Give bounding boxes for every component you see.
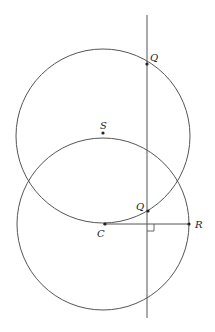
circles-group — [16, 49, 190, 310]
label-q-top: Q — [150, 52, 158, 63]
right-angle-mark — [147, 224, 154, 231]
label-s: S — [100, 120, 107, 131]
point-s — [101, 131, 104, 134]
label-r: R — [194, 219, 203, 230]
label-q-bottom: Q — [136, 201, 144, 212]
label-c: C — [97, 228, 105, 239]
point-q-bottom — [146, 209, 149, 212]
geometry-diagram: QSQCR — [0, 0, 215, 332]
points-group: QSQCR — [97, 52, 203, 239]
upper-circle — [16, 49, 190, 223]
point-r — [187, 222, 190, 225]
point-c — [103, 222, 106, 225]
point-q-top — [145, 62, 148, 65]
